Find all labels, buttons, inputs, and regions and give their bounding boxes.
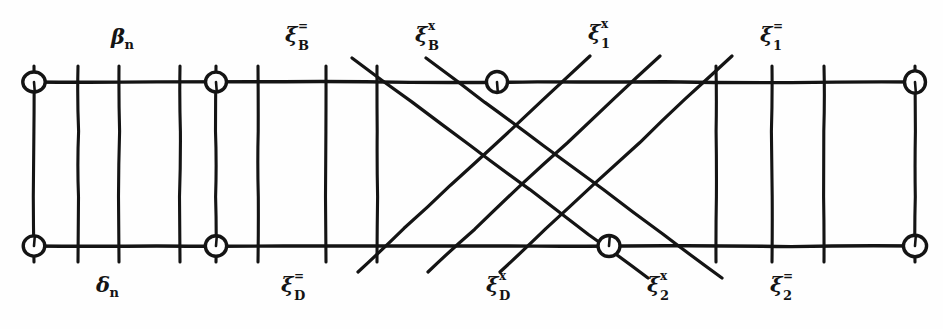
label-base: ξ	[415, 22, 427, 47]
node-top-cross-stub	[497, 82, 498, 92]
label-superscript: x	[499, 270, 506, 282]
node-bot-cross-stub	[609, 236, 610, 246]
node-top-left-stub	[34, 82, 35, 92]
vline-7	[326, 66, 327, 262]
vline-5	[216, 66, 217, 262]
label-base: ξ	[770, 272, 782, 297]
label-xi-B-eq: ξ=B	[285, 22, 297, 47]
vline-1	[33, 66, 34, 262]
label-subscript: D	[499, 289, 510, 302]
label-base: δ	[96, 272, 110, 297]
vline-3	[119, 66, 120, 262]
vline-10	[771, 66, 772, 262]
label-subscript: D	[294, 289, 305, 302]
ascending-diagonals-group	[358, 56, 732, 272]
bottom-rail	[30, 246, 918, 247]
label-subscript: 1	[601, 37, 610, 50]
label-base: β	[111, 24, 124, 49]
label-xi-D-eq: ξ=D	[281, 272, 293, 297]
diagram-canvas	[0, 0, 943, 329]
node-top-mid-stub	[216, 82, 217, 92]
diag-up-2	[428, 56, 660, 272]
top-rail	[30, 82, 918, 83]
label-base: ξ	[486, 272, 498, 297]
label-xi-D-x: ξxD	[486, 272, 498, 297]
label-superscript: =	[294, 270, 304, 282]
label-superscript: x	[428, 20, 435, 32]
label-subscript: 2	[783, 289, 792, 302]
node-bot-left-stub	[34, 236, 35, 246]
node-bot-mid-stub	[216, 236, 217, 246]
node-bot-right-stub	[915, 236, 916, 246]
vline-2	[78, 66, 79, 262]
vline-4	[180, 66, 181, 262]
label-subscript: B	[298, 39, 309, 52]
vline-12	[915, 66, 916, 262]
label-subscript: 2	[660, 289, 669, 302]
label-subscript: n	[110, 285, 119, 300]
vline-9	[716, 66, 717, 262]
label-superscript: =	[783, 270, 793, 282]
label-xi-B-x: ξxB	[415, 22, 427, 47]
node-top-right-stub	[915, 82, 916, 92]
label-superscript: =	[773, 20, 783, 32]
vline-8	[377, 66, 378, 262]
label-superscript: =	[298, 20, 308, 32]
label-superscript: x	[601, 18, 608, 30]
label-xi-2-eq: ξ=2	[770, 272, 782, 297]
label-superscript: x	[660, 270, 667, 282]
label-subscript: 1	[773, 39, 782, 52]
label-base: ξ	[647, 272, 659, 297]
label-subscript: n	[124, 37, 133, 52]
label-xi-2-x: ξx2	[647, 272, 659, 297]
label-delta-n: δn	[96, 272, 118, 300]
label-base: ξ	[285, 22, 297, 47]
lattice-diagram: βnξ=BξxBξx1ξ=1δnξ=DξxDξx2ξ=2	[0, 0, 943, 329]
label-xi-1-x: ξx1	[588, 20, 600, 45]
label-beta-n: βn	[111, 24, 133, 52]
label-base: ξ	[588, 20, 600, 45]
label-base: ξ	[281, 272, 293, 297]
label-subscript: B	[428, 39, 439, 52]
label-base: ξ	[760, 22, 772, 47]
vline-11	[824, 66, 825, 262]
label-xi-1-eq: ξ=1	[760, 22, 772, 47]
vline-6	[258, 66, 259, 262]
